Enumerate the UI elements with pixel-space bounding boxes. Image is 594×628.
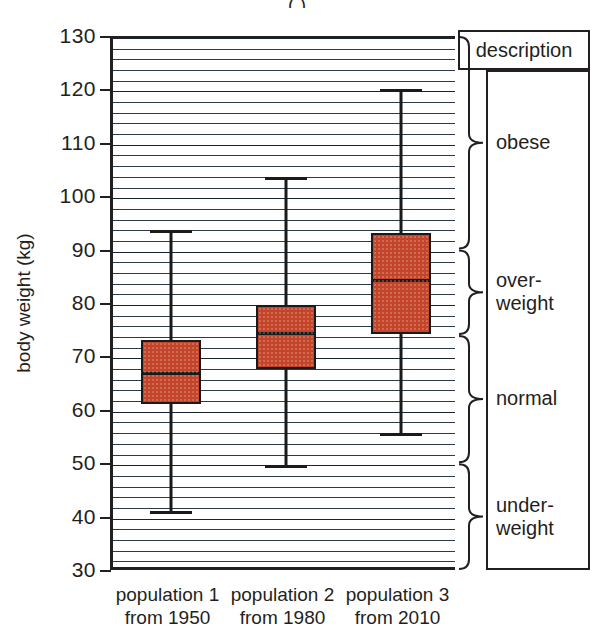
category-label-line1: under-	[496, 494, 554, 516]
y-axis-tick-label: 120	[59, 78, 96, 99]
x-axis-label-3: population 3from 2010	[328, 583, 468, 628]
lower-whisker-cap	[380, 433, 422, 436]
category-label-normal: normal	[496, 387, 592, 410]
x-axis-labels: population 1from 1950population 2from 19…	[0, 583, 594, 628]
boxplot-3	[343, 38, 458, 567]
boxplot-1	[113, 38, 228, 567]
upper-whisker-cap	[380, 89, 422, 92]
category-label-line1: over-	[496, 269, 542, 291]
category-label-under-weight: under-weight	[496, 494, 592, 540]
y-axis-tick-label: 90	[72, 239, 96, 260]
x-axis-label-line1: population 3	[346, 584, 450, 605]
y-axis-tick-label: 80	[72, 292, 96, 313]
y-axis-tick-label: 30	[72, 559, 96, 580]
lower-whisker-cap	[265, 465, 307, 468]
upper-whisker-cap	[265, 177, 307, 180]
y-axis-tick-label: 70	[72, 345, 96, 366]
chart-root: ( ) 13012011010090807060504030 body weig…	[0, 0, 594, 628]
brace-normal	[459, 336, 483, 462]
plot-area	[110, 36, 455, 570]
median-line	[143, 372, 199, 375]
category-braces	[455, 0, 487, 628]
brace-over-weight	[459, 251, 483, 334]
y-axis-tick-label: 130	[59, 25, 96, 46]
x-axis-label-line2: from 2010	[328, 606, 468, 628]
x-axis-label-line1: population 2	[231, 584, 335, 605]
y-axis-tick-mark	[100, 570, 111, 572]
median-line	[258, 332, 314, 335]
category-label-line1: obese	[496, 131, 551, 153]
description-header: description	[458, 30, 590, 70]
category-label-line2: weight	[496, 292, 554, 314]
y-axis-tick-label: 40	[72, 506, 96, 527]
y-axis-tick-label: 100	[59, 185, 96, 206]
category-label-line2: weight	[496, 517, 554, 539]
box-iqr	[256, 305, 316, 369]
y-axis-tick-label: 50	[72, 452, 96, 473]
category-label-over-weight: over-weight	[496, 269, 592, 315]
category-label-obese: obese	[496, 131, 592, 154]
box-iqr	[141, 340, 201, 404]
boxplot-2	[228, 38, 343, 567]
box-iqr	[371, 233, 431, 334]
median-line	[373, 279, 429, 282]
brace-under-weight	[459, 464, 483, 569]
y-axis-tick-label: 60	[72, 399, 96, 420]
lower-whisker-cap	[150, 511, 192, 514]
category-label-line1: normal	[496, 387, 557, 409]
y-axis-label: body weight (kg)	[13, 193, 35, 413]
x-axis-label-line1: population 1	[116, 584, 220, 605]
y-axis-tick-label: 110	[61, 132, 96, 153]
upper-whisker-cap	[150, 230, 192, 233]
